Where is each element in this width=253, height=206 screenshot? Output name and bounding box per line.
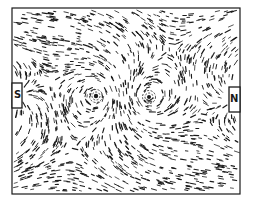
- iron-filings: [13, 10, 239, 191]
- north-pole-label: N: [230, 93, 238, 104]
- conductor-left: [94, 94, 98, 98]
- iron-filings-diagram: S N: [0, 0, 253, 206]
- field-pattern: [0, 0, 253, 206]
- conductor-right: [147, 95, 151, 99]
- south-pole-label: S: [14, 89, 21, 100]
